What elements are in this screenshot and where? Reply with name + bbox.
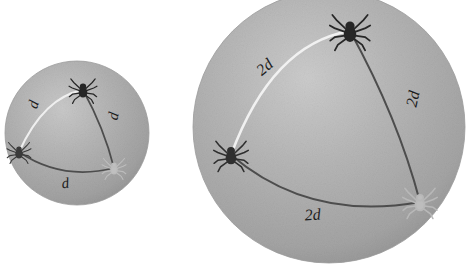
large-sphere-label-bottom: 2d (304, 205, 322, 223)
small-sphere-group: d d d (5, 61, 149, 205)
large-sphere-body (193, 0, 465, 263)
spheres-illustration: d d d 2d 2d 2d (0, 0, 475, 278)
figure-canvas: d d d 2d 2d 2d (0, 0, 475, 278)
large-sphere-group: 2d 2d 2d (193, 0, 465, 263)
small-sphere-body (5, 61, 149, 205)
